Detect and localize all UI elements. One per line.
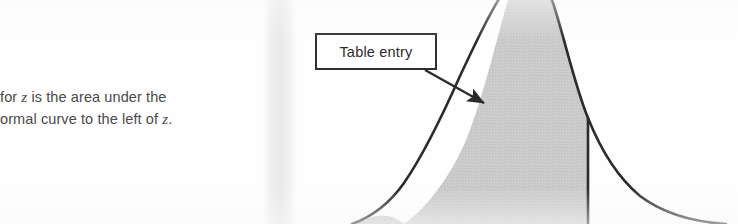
caption-line-1-suffix: is the area under the — [27, 89, 166, 105]
caption-line-2: ormal curve to the left of z. — [0, 108, 255, 130]
caption-line-2-suffix: . — [168, 111, 172, 127]
table-entry-callout-box: Table entry — [315, 33, 437, 70]
table-entry-label: Table entry — [339, 44, 412, 60]
caption-line-2-prefix: ormal curve to the left of — [0, 111, 162, 127]
caption-line-1: for z is the area under the — [0, 86, 255, 108]
caption-line-1-prefix: for — [0, 89, 21, 105]
figure-caption: for z is the area under the ormal curve … — [0, 86, 255, 130]
callout-arrow — [425, 70, 484, 103]
